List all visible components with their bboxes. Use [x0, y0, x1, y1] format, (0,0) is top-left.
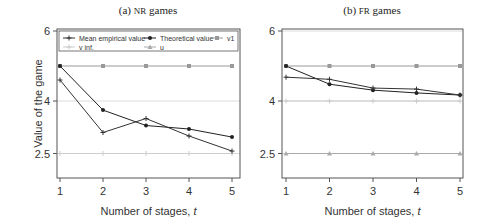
square-marker: [144, 64, 148, 68]
plus-marker: [230, 149, 235, 154]
plus-marker: [284, 75, 289, 80]
plus-marker: [458, 99, 463, 104]
legend-label: v1: [227, 35, 235, 42]
x-axis-label: Number of stages, t: [325, 205, 422, 217]
dot-marker: [144, 124, 148, 128]
x-tick-label: 5: [229, 185, 235, 197]
plus-marker: [187, 134, 192, 139]
plus-marker: [58, 151, 63, 156]
square-marker: [371, 64, 375, 68]
plus-marker: [414, 87, 419, 92]
x-tick-label: 3: [143, 185, 149, 197]
x-tick-label: 1: [57, 185, 63, 197]
series-v-inf-: [58, 151, 235, 156]
legend-label: Mean empirical value: [79, 35, 145, 43]
plus-marker: [327, 77, 332, 82]
square-marker: [230, 64, 234, 68]
panel-nr-games: (a) NR games2.54612345Number of stages, …: [32, 4, 240, 217]
dot-marker: [230, 135, 234, 139]
x-tick-label: 5: [457, 185, 463, 197]
series-theoretical-value: [58, 64, 234, 139]
plus-marker: [371, 99, 376, 104]
plus-marker: [144, 116, 149, 121]
plus-marker: [187, 151, 192, 156]
x-tick-label: 2: [326, 185, 332, 197]
legend-label: u: [160, 44, 164, 51]
x-tick-label: 4: [186, 185, 192, 197]
dot-marker: [187, 127, 191, 131]
square-marker: [187, 64, 191, 68]
series-v1: [284, 64, 462, 68]
x-tick-label: 2: [100, 185, 106, 197]
dot-marker: [58, 64, 62, 68]
y-tick-label: 6: [44, 25, 50, 37]
square-marker: [458, 64, 462, 68]
x-tick-label: 4: [413, 185, 419, 197]
plus-marker: [458, 93, 463, 98]
plus-marker: [414, 99, 419, 104]
square-marker: [101, 64, 105, 68]
panel-fr-games: (b) FR games2.54612345Number of stages, …: [260, 4, 463, 217]
legend-label: v inf.: [79, 44, 94, 51]
chart-title: (b) FR games: [343, 4, 400, 17]
plus-marker: [327, 99, 332, 104]
dot-marker: [148, 36, 152, 40]
square-marker: [415, 64, 419, 68]
y-tick-label: 2.5: [35, 148, 50, 160]
series-line: [60, 80, 232, 151]
series-u: [284, 151, 463, 156]
legend: Mean empirical valueTheoretical valuev1v…: [59, 31, 238, 51]
plus-marker: [101, 151, 106, 156]
figure: (a) NR games2.54612345Number of stages, …: [0, 0, 481, 222]
plus-marker: [144, 151, 149, 156]
y-axis-label: Value of the game: [32, 59, 44, 147]
y-tick-label: 6: [269, 25, 275, 37]
x-tick-label: 1: [283, 185, 289, 197]
y-tick-label: 2.5: [260, 148, 275, 160]
x-tick-label: 3: [370, 185, 376, 197]
x-axis-label: Number of stages, t: [101, 205, 198, 217]
dot-marker: [284, 64, 288, 68]
chart-title: (a) NR games: [119, 4, 177, 17]
series-v-inf-: [284, 99, 463, 104]
y-tick-label: 4: [269, 95, 275, 107]
series-v1: [58, 64, 234, 68]
square-marker: [328, 64, 332, 68]
dot-marker: [328, 82, 332, 86]
y-tick-label: 4: [44, 95, 50, 107]
square-marker: [215, 36, 219, 40]
plus-marker: [284, 99, 289, 104]
series-mean-empirical-value: [58, 78, 235, 154]
legend-label: Theoretical value: [160, 35, 213, 42]
dot-marker: [101, 108, 105, 112]
